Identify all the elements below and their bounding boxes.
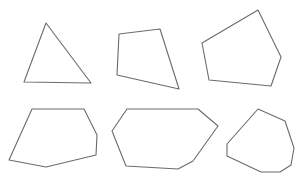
shapes-canvas (0, 0, 302, 184)
hexagon-shape (9, 109, 97, 167)
pentagon-shape (202, 10, 281, 86)
heptagon-shape (112, 109, 218, 169)
triangle-shape (24, 23, 91, 83)
octagon-shape (227, 109, 294, 172)
quadrilateral-shape (117, 29, 179, 89)
